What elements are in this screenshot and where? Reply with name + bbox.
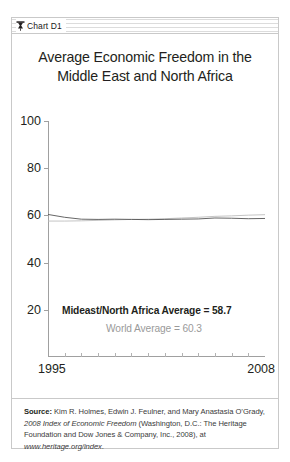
chart-figure-card: Chart D1 Average Economic Freedom in the… (11, 17, 279, 449)
chart-body: Average Economic Freedom in the Middle E… (12, 34, 278, 397)
y-axis-tick-label: 20 (27, 303, 41, 317)
source-note-block: Source: Kim R. Holmes, Edwin J. Feulner,… (12, 398, 278, 448)
annotation-region-average: Mideast/North Africa Average = 58.7 (62, 305, 231, 316)
y-axis-tick-label: 40 (27, 256, 41, 270)
x-axis-label-start: 1995 (38, 362, 66, 376)
figure-header-label-group: Chart D1 (16, 18, 66, 33)
y-axis-tick-label: 80 (27, 161, 41, 175)
series-lines (48, 121, 265, 357)
x-axis-label-end: 2008 (247, 362, 275, 376)
y-axis-tick-label: 60 (27, 208, 41, 222)
plot-area: 10080604020 1995 2008 Mideast/North Afri… (48, 121, 265, 357)
figure-header-label: Chart D1 (27, 21, 62, 31)
annotation-world-average: World Average = 60.3 (106, 323, 202, 334)
chart-title: Average Economic Freedom in the Middle E… (12, 34, 278, 85)
source-note-text: Source: Kim R. Holmes, Edwin J. Feulner,… (24, 406, 266, 452)
figure-header-bar: Chart D1 (12, 18, 278, 34)
y-axis-tick-label: 100 (20, 114, 41, 128)
chart-pin-icon (16, 21, 25, 31)
